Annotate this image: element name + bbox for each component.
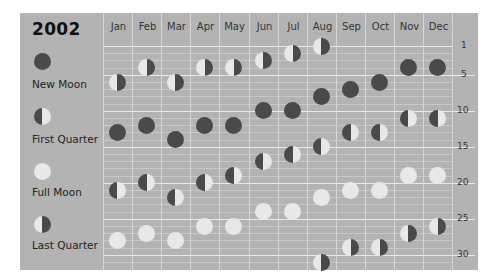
- first-quarter-icon: [284, 146, 301, 163]
- last-quarter-icon: [371, 239, 388, 256]
- legend-label: First Quarter: [32, 133, 98, 145]
- first-quarter-icon: [225, 167, 242, 184]
- axis-tick-label: 30: [457, 249, 468, 259]
- month-label: Jul: [279, 21, 308, 32]
- axis-tick-label: 15: [457, 141, 468, 151]
- last-quarter-icon: [34, 216, 51, 233]
- legend-label: New Moon: [32, 78, 87, 90]
- month-label: Mar: [162, 21, 191, 32]
- first-quarter-icon: [138, 174, 155, 191]
- new-moon-icon: [371, 74, 388, 91]
- first-quarter-icon: [313, 138, 330, 155]
- month-label: Nov: [395, 21, 424, 32]
- month-column-sep: Sep: [336, 13, 366, 270]
- month-label: Sep: [337, 21, 366, 32]
- last-quarter-icon: [342, 239, 359, 256]
- full-moon-icon: [371, 182, 388, 199]
- new-moon-icon: [138, 117, 155, 134]
- new-moon-icon: [255, 102, 272, 119]
- first-quarter-icon: [371, 124, 388, 141]
- legend-label: Last Quarter: [32, 239, 98, 251]
- new-moon-icon: [34, 53, 51, 70]
- full-moon-icon: [138, 225, 155, 242]
- full-moon-icon: [313, 189, 330, 206]
- month-label: Apr: [191, 21, 220, 32]
- legend-label: Full Moon: [32, 186, 82, 198]
- month-label: Dec: [424, 21, 453, 32]
- full-moon-icon: [109, 232, 126, 249]
- first-quarter-icon: [167, 189, 184, 206]
- full-moon-icon: [167, 232, 184, 249]
- month-label: Jan: [104, 21, 133, 32]
- full-moon-icon: [342, 182, 359, 199]
- new-moon-icon: [284, 102, 301, 119]
- last-quarter-icon: [196, 59, 213, 76]
- month-label: Feb: [133, 21, 162, 32]
- new-moon-icon: [109, 124, 126, 141]
- full-moon-icon: [34, 163, 51, 180]
- first-quarter-icon: [342, 124, 359, 141]
- month-label: Jun: [250, 21, 279, 32]
- full-moon-icon: [196, 218, 213, 235]
- last-quarter-icon: [225, 59, 242, 76]
- new-moon-icon: [429, 59, 446, 76]
- month-label: Oct: [366, 21, 395, 32]
- first-quarter-icon: [255, 153, 272, 170]
- first-quarter-icon: [196, 174, 213, 191]
- legend-panel: 2002 New Moon First Quarter Full Moon La…: [20, 13, 103, 270]
- full-moon-icon: [225, 218, 242, 235]
- new-moon-icon: [167, 131, 184, 148]
- last-quarter-icon: [313, 38, 330, 55]
- last-quarter-icon: [429, 218, 446, 235]
- full-moon-icon: [255, 203, 272, 220]
- full-moon-icon: [400, 167, 417, 184]
- month-label: Aug: [308, 21, 337, 32]
- last-quarter-icon: [313, 254, 330, 271]
- new-moon-icon: [225, 117, 242, 134]
- month-column-oct: Oct: [365, 13, 395, 270]
- last-quarter-icon: [138, 59, 155, 76]
- axis-tick-label: 1: [461, 40, 467, 50]
- new-moon-icon: [400, 59, 417, 76]
- axis-tick-label: 5: [461, 69, 467, 79]
- month-label: May: [220, 21, 249, 32]
- grid-right-border: [452, 13, 454, 270]
- last-quarter-icon: [167, 74, 184, 91]
- year-title: 2002: [32, 19, 81, 39]
- axis-tick-label: 25: [457, 213, 468, 223]
- last-quarter-icon: [109, 74, 126, 91]
- last-quarter-icon: [400, 225, 417, 242]
- new-moon-icon: [342, 81, 359, 98]
- last-quarter-icon: [255, 52, 272, 69]
- first-quarter-icon: [109, 182, 126, 199]
- new-moon-icon: [196, 117, 213, 134]
- full-moon-icon: [429, 167, 446, 184]
- first-quarter-icon: [429, 110, 446, 127]
- first-quarter-icon: [400, 110, 417, 127]
- axis-tick-label: 20: [457, 177, 468, 187]
- last-quarter-icon: [284, 45, 301, 62]
- axis-tick-label: 10: [457, 105, 468, 115]
- new-moon-icon: [313, 88, 330, 105]
- first-quarter-icon: [34, 108, 51, 125]
- full-moon-icon: [284, 203, 301, 220]
